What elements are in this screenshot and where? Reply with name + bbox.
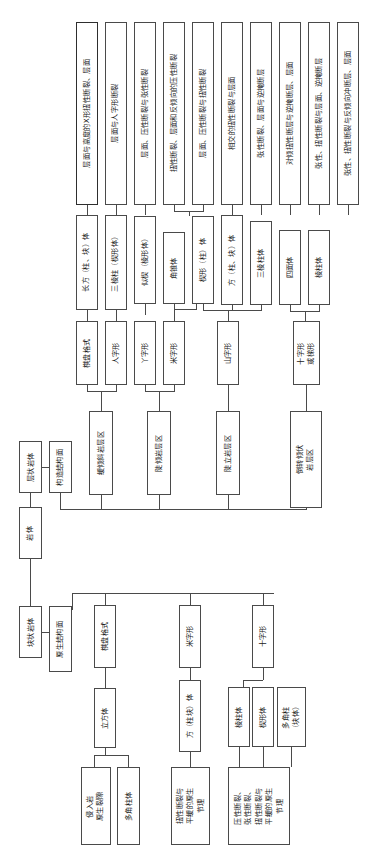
node-label: 倒转倾伏 岩层区 (296, 445, 317, 475)
node-label: 层面与人字形断裂 (111, 84, 121, 143)
node-body-8[interactable]: 四面体 (279, 230, 301, 305)
node-primary-structure-plane[interactable]: 原生结构面 (49, 606, 72, 672)
node-pattern-shizi[interactable]: 十字形 或梯形 (293, 321, 320, 385)
node-label: 张性、扭性断裂与层面、逆掩断层 (314, 58, 324, 169)
node-layered-rock-mass[interactable]: 层状岩体 (19, 441, 42, 493)
node-label: 角锥体 (169, 257, 179, 279)
node-body-6[interactable]: 方（柱、块）体 (221, 215, 243, 305)
node-zone-vertical[interactable]: 陡立岩层区 (216, 411, 240, 495)
node-label: 米字形 (169, 342, 179, 364)
node-body-3[interactable]: 似楔（棱形体） (134, 216, 156, 304)
node-label: 层面、压性断裂与张性断裂 (140, 69, 150, 158)
node-pattern-yazi[interactable]: 丫字形 (134, 321, 156, 385)
node-body-2[interactable]: 三棱柱（楔形体） (105, 215, 127, 310)
connector (159, 495, 160, 509)
node-combination-7[interactable]: 张性断裂、层面与逆掩断层 (250, 22, 272, 205)
node-combination-4[interactable]: 扭性断裂、层面和反倾向的压性断裂 (163, 22, 185, 205)
connector (263, 747, 264, 767)
node-combination-9[interactable]: 张性、扭性断裂与层面、逆掩断层 (308, 22, 330, 205)
connector (305, 311, 306, 321)
node-massive-combination-3[interactable]: 扭性断裂与 平缓的原生 节理 (171, 767, 210, 845)
node-rock-mass-root[interactable]: 岩体 (19, 507, 42, 559)
node-pattern-chessboard[interactable]: 棋盘格式 (76, 321, 98, 385)
node-massive-combination-2[interactable]: 多角柱体 (117, 767, 140, 845)
node-zone-overturned[interactable]: 倒转倾伏 岩层区 (290, 411, 322, 508)
node-label: 山字形 (223, 342, 233, 364)
node-label: 十字形 (258, 625, 268, 647)
node-massive-pattern-mizi[interactable]: 米字形 (179, 605, 201, 668)
node-massive-combination-1[interactable]: 侵入岩 原生裂隙 (81, 767, 111, 845)
connector (42, 467, 49, 468)
node-combination-6[interactable]: 相交的扭性断裂与层面 (221, 22, 243, 205)
node-massive-body-prism[interactable]: 棱柱体 (228, 687, 250, 747)
node-label: 相交的扭性断裂与层面 (227, 77, 237, 151)
node-pattern-mizi[interactable]: 米字形 (163, 321, 185, 385)
connector (190, 593, 191, 605)
connector (116, 205, 117, 215)
connector (94, 755, 128, 756)
node-body-1[interactable]: 长方（柱、块）体 (76, 215, 98, 310)
connector (174, 309, 175, 321)
connector-bus (72, 593, 274, 594)
node-label: 三棱柱体 (256, 248, 266, 278)
node-label: 楔形（柱）体 (198, 238, 208, 282)
node-massive-rock-mass[interactable]: 块状岩体 (19, 606, 42, 658)
connector (30, 493, 31, 507)
connector (189, 211, 190, 216)
node-label: 岩体 (25, 526, 35, 541)
node-massive-combination-4[interactable]: 压性断裂、 张性断裂、 扭性断裂与 平缓的原生 节理 (228, 767, 290, 845)
connector (105, 748, 106, 755)
node-body-5[interactable]: 楔形（柱）体 (192, 216, 214, 304)
connector (263, 593, 264, 605)
node-body-4[interactable]: 角锥体 (163, 232, 185, 304)
node-body-9[interactable]: 棱柱体 (308, 230, 330, 305)
node-label: 多角柱体 (123, 791, 133, 821)
node-massive-pattern-shizi[interactable]: 十字形 (252, 605, 274, 668)
connector (42, 632, 49, 633)
node-pattern-shanzi[interactable]: 山字形 (217, 321, 239, 385)
connector (348, 205, 349, 215)
node-label: 压性断裂、 张性断裂、 扭性断裂与 平缓的原生 节理 (233, 788, 285, 825)
node-label: 扭性断裂、层面和反倾向的压性断裂 (169, 54, 179, 172)
node-label: 块状岩体 (25, 617, 35, 647)
node-zone-steep[interactable]: 陡倾岩层区 (147, 411, 171, 495)
node-massive-body-polygonal[interactable]: 多角柱 （块体） (277, 687, 306, 747)
node-label: 长方（柱、块）体 (82, 233, 92, 292)
node-combination-5[interactable]: 层面、压性断裂与扭性断裂 (192, 22, 214, 205)
connector-bus (60, 509, 307, 510)
node-combination-10[interactable]: 张性、扭性断裂与反倾向冲断层、层面 (337, 22, 359, 205)
node-label: 楔形体 (258, 706, 268, 728)
node-massive-body-wedge[interactable]: 楔形体 (252, 687, 274, 747)
node-pattern-renzi[interactable]: 人字形 (105, 321, 127, 385)
node-zone-gentle[interactable]: 缓倾斜岩层区 (89, 411, 113, 495)
connector (145, 205, 146, 215)
node-massive-body-cube[interactable]: 立方体 (94, 688, 116, 748)
node-massive-pattern-chessboard[interactable]: 棋盘格式 (94, 605, 116, 668)
node-label: 层状岩体 (25, 452, 35, 482)
node-label: 张性断裂、层面与逆掩断层 (256, 69, 266, 158)
connector (261, 205, 262, 215)
node-tectonic-structure-plane[interactable]: 构造结构面 (49, 441, 72, 493)
connector (101, 495, 102, 509)
node-combination-2[interactable]: 层面与人字形断裂 (105, 22, 127, 205)
node-label: 侵入岩 原生裂隙 (86, 791, 107, 821)
node-label: 丫字形 (140, 342, 150, 364)
node-massive-body-square[interactable]: 方（柱块）体 (179, 680, 201, 752)
connector (243, 680, 244, 687)
node-label: 棋盘格式 (82, 338, 92, 368)
node-label: 三棱柱（楔形体） (111, 233, 121, 292)
node-label: 陡立岩层区 (223, 435, 233, 472)
node-label: 缓倾斜岩层区 (96, 431, 106, 475)
connector (190, 668, 191, 680)
node-label: 陡倾岩层区 (154, 435, 164, 472)
node-label: 层面、压性断裂与扭性断裂 (198, 69, 208, 158)
connector (190, 752, 191, 767)
node-label: 构造结构面 (55, 449, 65, 486)
node-label: 人字形 (111, 342, 121, 364)
connector (174, 309, 197, 310)
node-body-7[interactable]: 三棱柱体 (250, 221, 272, 305)
node-label: 棱柱体 (234, 706, 244, 728)
node-combination-8[interactable]: 对倾扭性断层与逆掩断层、层面 (279, 22, 301, 205)
node-combination-3[interactable]: 层面、压性断裂与张性断裂 (134, 22, 156, 205)
node-combination-1[interactable]: 层面与高度的X形扭性断裂、层面 (76, 22, 98, 205)
